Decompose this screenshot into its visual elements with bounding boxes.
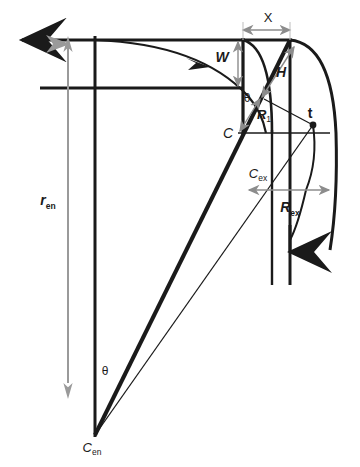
w-dimension-label: W: [215, 49, 230, 65]
entry-radius-chord-thick: [95, 40, 290, 435]
outer-exit-arc-lower: [330, 133, 336, 250]
center-c-label: C: [223, 125, 234, 141]
outer-exit-arc-upper: [290, 40, 336, 133]
h-dimension-label: H: [276, 64, 287, 80]
r-ex-label: Rex: [280, 199, 300, 218]
r1-label: R1: [257, 107, 271, 124]
theta-upper-label: θ: [244, 91, 251, 105]
tangent-point-node: [310, 122, 317, 129]
r-en-label: ren: [40, 192, 55, 211]
r-en-dimension-arrowhead-bottom: [63, 383, 72, 399]
x-dimension-label: X: [264, 10, 273, 25]
tangent-t-label: t: [308, 105, 313, 121]
theta-lower-label: θ: [102, 364, 109, 378]
exit-radius-arc: [306, 125, 314, 190]
geometry-diagram: X W H R1 θ θ C t Cex Cen ren Rex: [0, 0, 360, 467]
diagram-canvas: X W H R1 θ θ C t Cex Cen ren Rex: [0, 0, 360, 467]
exit-center-radial-line: [95, 125, 313, 435]
c-ex-label: Cex: [249, 166, 268, 183]
c-en-label: Cen: [83, 440, 102, 457]
